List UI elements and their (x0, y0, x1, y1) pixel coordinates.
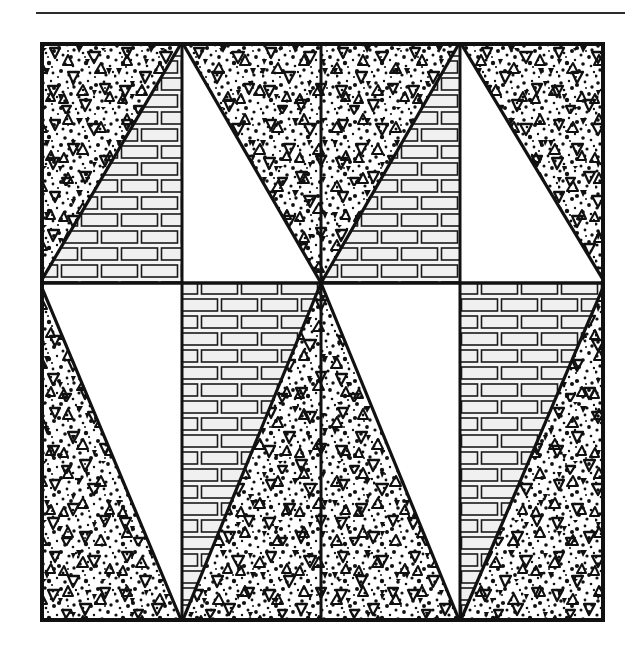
cell-r0c1 (182, 42, 321, 283)
horizontal-rule (36, 12, 625, 14)
pattern-figure (40, 42, 605, 622)
cell-r1c0 (40, 283, 182, 622)
cell-r1c1 (182, 283, 321, 622)
pattern-figure-svg (40, 42, 605, 622)
cell-r0c0 (40, 42, 182, 283)
page-canvas (0, 0, 641, 654)
cell-r1c2 (321, 283, 460, 622)
cell-r0c2 (321, 42, 460, 283)
cell-r0c3 (460, 42, 605, 283)
cell-r1c3 (460, 283, 605, 622)
